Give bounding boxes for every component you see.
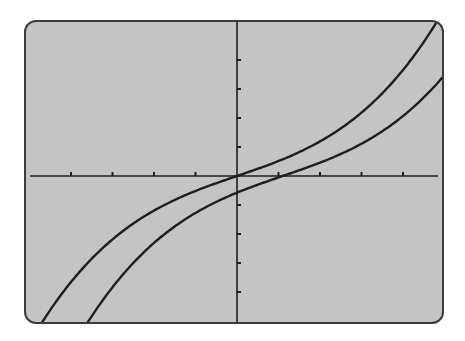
- cubic-curve-through-origin: [40, 22, 438, 322]
- cubic-curve-shifted: [86, 78, 442, 322]
- cubic-graph-plot: [26, 22, 442, 322]
- curves: [40, 22, 442, 322]
- axes: [30, 22, 438, 322]
- graph-screen: [24, 20, 444, 324]
